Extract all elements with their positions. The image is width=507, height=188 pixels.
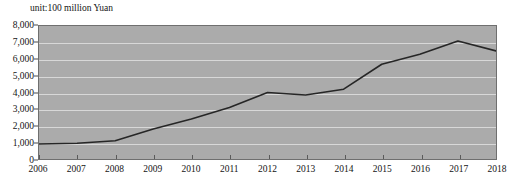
y-axis-tick-label: 5,000 xyxy=(13,71,34,81)
y-axis-tick-label: 6,000 xyxy=(13,54,34,64)
x-axis-tick-label: 2010 xyxy=(182,163,201,175)
x-axis-tick-label: 2006 xyxy=(29,163,48,175)
x-axis-tick-label: 2013 xyxy=(296,163,315,175)
x-axis-tick-label: 2015 xyxy=(373,163,392,175)
y-axis-tick-label: 7,000 xyxy=(13,37,34,47)
x-axis-tick-label: 2012 xyxy=(258,163,277,175)
x-axis-tick-label: 2007 xyxy=(67,163,86,175)
x-axis-tick-label: 2008 xyxy=(105,163,124,175)
y-axis-tick-label: 1,000 xyxy=(13,138,34,148)
chart-unit-label: unit:100 million Yuan xyxy=(30,3,113,14)
y-axis-tick-label: 4,000 xyxy=(13,88,34,98)
data-series-line xyxy=(39,26,496,159)
x-axis-tick-label: 2009 xyxy=(143,163,162,175)
plot-area xyxy=(38,25,497,160)
x-axis-tick-label: 2011 xyxy=(220,163,239,175)
x-axis-tick-label: 2014 xyxy=(335,163,354,175)
data-polyline xyxy=(39,41,496,144)
x-axis: 2006200720082009201020112012201320142015… xyxy=(38,163,497,179)
y-axis: 8,0007,0006,0005,0004,0003,0002,0001,000… xyxy=(0,25,34,160)
x-axis-tick-label: 2017 xyxy=(449,163,468,175)
y-axis-tick-label: 2,000 xyxy=(13,121,34,131)
x-axis-tick-label: 2016 xyxy=(411,163,430,175)
x-axis-tick-label: 2018 xyxy=(488,163,507,175)
y-axis-tick-label: 8,000 xyxy=(13,20,34,30)
y-axis-tick-label: 3,000 xyxy=(13,104,34,114)
